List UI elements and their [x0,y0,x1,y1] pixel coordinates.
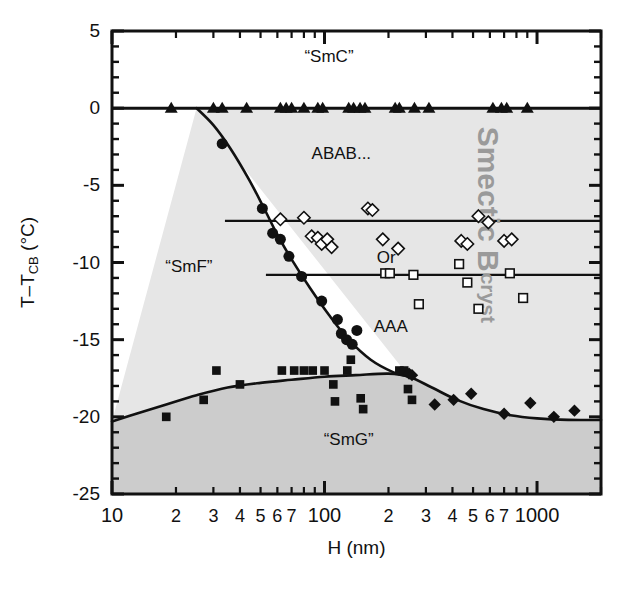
data-point-filled-square [162,413,171,422]
data-point-filled-circle [283,251,294,262]
region-label-abab: ABAB... [312,144,372,163]
y-tick-label: -15 [73,329,100,350]
data-point-filled-square [404,385,413,394]
data-point-open-square [386,269,395,278]
region-label-aaa: AAA [374,317,409,336]
data-point-filled-square [408,396,417,405]
data-point-filled-circle [257,203,268,214]
data-point-filled-circle [316,296,327,307]
data-point-filled-circle [351,325,362,336]
y-tick-label: 0 [89,97,100,118]
y-tick-label: -10 [73,252,100,273]
y-tick-label: -25 [73,483,100,504]
y-tick-label: -20 [73,406,100,427]
x-tick-label: 7 [287,506,297,526]
data-point-filled-circle [296,271,307,282]
region-label-cryst-sub: cryst [477,273,500,323]
y-axis-title-text: T–TCB (°C) [17,217,41,308]
x-tick-label: 100 [308,504,341,526]
x-tick-label: 4 [235,506,245,526]
data-point-open-square [455,260,464,269]
data-point-open-square [506,269,515,278]
data-point-open-square [409,271,418,280]
y-tick-label: 5 [89,20,100,41]
phase-diagram-svg: “SmC”ABAB...OrAAA“SmF”“SmG”Smectic Bcrys… [0,0,632,596]
data-point-filled-square [347,355,356,364]
data-point-open-square [519,294,528,303]
x-tick-label: 1000 [515,504,560,526]
region-label-smectic-b-cryst: Smectic B [472,127,505,272]
region-label-smf: “SmF” [165,257,213,276]
data-point-filled-circle [217,138,228,149]
data-point-filled-square [199,396,208,405]
x-tick-label: 5 [468,506,478,526]
data-point-filled-square [236,380,245,389]
x-tick-label: 6 [272,506,282,526]
data-point-open-square [463,278,472,287]
x-tick-label: 2 [171,506,181,526]
data-point-filled-circle [347,339,358,350]
data-point-filled-square [212,366,221,375]
x-tick-label: 4 [447,506,457,526]
x-tick-label: 3 [421,506,431,526]
data-point-filled-square [356,394,365,403]
data-point-filled-square [331,397,340,406]
x-tick-label: 2 [383,506,393,526]
x-tick-label: 3 [208,506,218,526]
data-point-filled-square [300,366,309,375]
data-point-filled-square [320,366,329,375]
data-point-open-square [415,300,424,309]
x-axis-title-text: H (nm) [327,537,385,558]
x-tick-label: 7 [499,506,509,526]
phase-diagram-figure: “SmC”ABAB...OrAAA“SmF”“SmG”Smectic Bcrys… [0,0,632,596]
data-point-filled-square [290,366,299,375]
data-point-filled-circle [275,234,286,245]
x-tick-label: 5 [256,506,266,526]
y-tick-label: -5 [83,174,100,195]
data-point-filled-square [329,380,338,389]
data-point-filled-circle [332,314,343,325]
data-point-filled-square [278,366,287,375]
region-label-smc: “SmC” [304,47,353,66]
data-point-open-square [474,304,483,313]
region-label-smg: “SmG” [324,430,374,449]
x-tick-label: 6 [485,506,495,526]
data-point-filled-square [343,366,352,375]
data-point-filled-square [359,405,368,414]
x-tick-label: 10 [101,504,123,526]
data-point-filled-square [308,366,317,375]
